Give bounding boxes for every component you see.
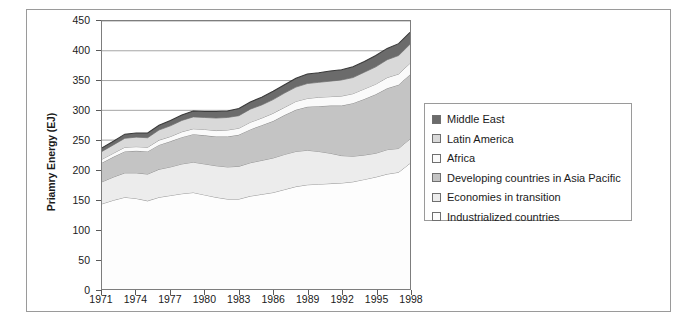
legend-swatch-industrialized-countries: [432, 212, 441, 221]
legend-label: Latin America: [447, 133, 514, 145]
x-tick-mark: [170, 290, 171, 295]
legend-label: Africa: [447, 152, 475, 164]
legend-label: Middle East: [447, 113, 504, 125]
x-tick-mark: [308, 290, 309, 295]
legend-label: Developing countries in Asia Pacific: [447, 172, 621, 184]
legend-swatch-economies-in-transition: [432, 193, 441, 202]
y-tick-mark: [96, 170, 101, 171]
legend-label: Industrialized countries: [447, 211, 560, 223]
figure-canvas: Priamry Energy (EJ) 45040035030025020015…: [0, 0, 683, 334]
legend-item[interactable]: Industrialized countries: [432, 208, 631, 226]
x-tick-mark: [204, 290, 205, 295]
chart-legend: Middle East Latin America Africa Develop…: [424, 103, 632, 221]
x-tick-mark: [135, 290, 136, 295]
x-tick-mark: [101, 290, 102, 295]
y-tick-mark: [96, 80, 101, 81]
legend-item[interactable]: Developing countries in Asia Pacific: [432, 169, 631, 187]
y-tick-mark: [96, 260, 101, 261]
y-tick-mark: [96, 290, 101, 291]
legend-swatch-africa: [432, 154, 441, 163]
x-tick-label: 1998: [391, 294, 431, 305]
legend-swatch-latin-america: [432, 134, 441, 143]
legend-item[interactable]: Economies in transition: [432, 188, 631, 206]
legend-label: Economies in transition: [447, 191, 561, 203]
x-tick-mark: [273, 290, 274, 295]
legend-item[interactable]: Latin America: [432, 130, 631, 148]
y-tick-mark: [96, 140, 101, 141]
x-tick-mark: [342, 290, 343, 295]
x-tick-mark: [411, 290, 412, 295]
y-tick-mark: [96, 20, 101, 21]
legend-item[interactable]: Middle East: [432, 110, 631, 128]
y-tick-mark: [96, 50, 101, 51]
legend-swatch-middle-east: [432, 115, 441, 124]
y-tick-mark: [96, 200, 101, 201]
y-tick-mark: [96, 110, 101, 111]
legend-item[interactable]: Africa: [432, 149, 631, 167]
legend-swatch-developing-asia-pacific: [432, 173, 441, 182]
y-tick-mark: [96, 230, 101, 231]
x-tick-mark: [239, 290, 240, 295]
x-tick-mark: [377, 290, 378, 295]
